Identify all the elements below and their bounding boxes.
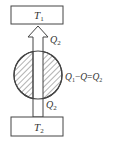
energy-equation: Q1−Q=Q2 — [65, 72, 102, 83]
heat-pump-diagram: T1 Q2 Q2 Q1−Q=Q2 T2 — [0, 0, 119, 144]
arrow-top-label: Q2 — [50, 34, 61, 47]
bottom-reservoir-box: T2 — [11, 117, 63, 136]
top-reservoir-box: T1 — [11, 6, 63, 24]
arrow-bottom-label: Q2 — [46, 99, 57, 112]
